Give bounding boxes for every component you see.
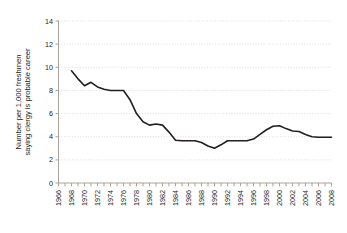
line-chart: 02468101214 1966196819701972197419761978… [0, 0, 347, 233]
x-tick-label: 1990 [210, 190, 219, 206]
y-axis-label-line: saying clergy is probable career [23, 48, 32, 156]
y-axis-label: Number per 1,000 freshmensaying clergy i… [14, 48, 32, 156]
y-tick-label: 8 [49, 86, 53, 95]
x-tick-label: 1978 [132, 190, 141, 206]
x-tick-label: 2000 [275, 190, 284, 206]
x-tick-label: 1998 [262, 190, 271, 206]
x-tick-label: 1992 [223, 190, 232, 206]
y-tick-label: 6 [49, 109, 53, 118]
x-tick-label: 2006 [314, 190, 323, 206]
x-tick-label: 2004 [301, 190, 310, 206]
x-tick-label: 1982 [158, 190, 167, 206]
x-tick-label: 1988 [197, 190, 206, 206]
x-tick-label: 1980 [145, 190, 154, 206]
x-tick-label: 1970 [80, 190, 89, 206]
y-tick-label: 0 [49, 179, 53, 188]
x-tick-label: 2008 [327, 190, 336, 206]
y-tick-label: 2 [49, 155, 53, 164]
x-tick-label: 1968 [67, 190, 76, 206]
chart-container: 02468101214 1966196819701972197419761978… [0, 0, 347, 233]
x-tick-label: 1974 [106, 190, 115, 206]
x-tick-label: 1996 [249, 190, 258, 206]
x-tick-label: 1986 [184, 190, 193, 206]
x-tick-label: 1972 [93, 190, 102, 206]
y-tick-label: 12 [45, 40, 53, 49]
x-tick-label: 1976 [119, 190, 128, 206]
y-tick-label: 10 [45, 63, 53, 72]
x-tick-label: 2002 [288, 190, 297, 206]
y-tick-label: 4 [49, 132, 53, 141]
y-tick-label: 14 [45, 17, 53, 26]
x-tick-label: 1966 [54, 190, 63, 206]
x-tick-label: 1984 [171, 190, 180, 206]
x-tick-label: 1994 [236, 190, 245, 206]
y-axis-label-line: Number per 1,000 freshmen [14, 55, 23, 150]
